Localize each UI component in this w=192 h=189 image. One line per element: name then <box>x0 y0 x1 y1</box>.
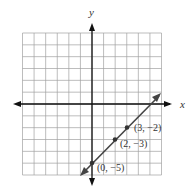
point-3-neg2 <box>125 125 130 130</box>
point-label-2-neg3: (2, −3) <box>120 138 147 150</box>
y-axis-label: y <box>88 6 94 18</box>
x-axis-label: x <box>179 98 185 110</box>
y-axis-up-arrow-icon <box>89 23 95 31</box>
coordinate-plane: y x (3, −2) (2, −3) (0, −5) <box>0 0 192 189</box>
point-0-neg5 <box>90 161 95 166</box>
y-axis-down-arrow-icon <box>89 178 95 186</box>
point-label-3-neg2: (3, −2) <box>134 122 161 134</box>
point-label-0-neg5: (0, −5) <box>97 162 124 174</box>
x-axis-left-arrow-icon <box>13 101 21 107</box>
point-2-neg3 <box>113 137 118 142</box>
x-axis-right-arrow-icon <box>164 101 172 107</box>
